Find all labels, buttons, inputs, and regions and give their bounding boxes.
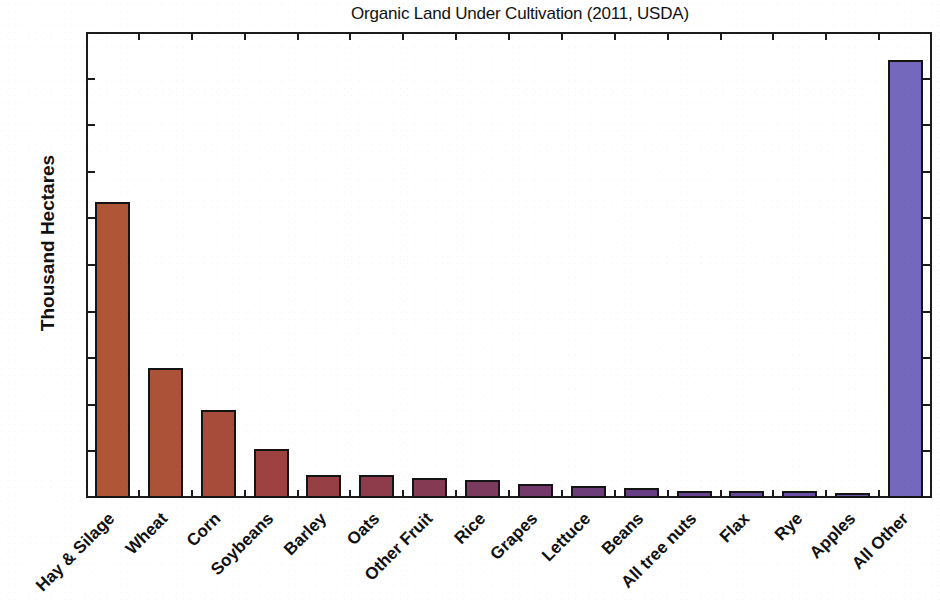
bar-chart: Organic Land Under Cultivation (2011, US… <box>0 0 940 602</box>
x-axis-labels: Hay & SilageWheatCornSoybeansBarleyOatsO… <box>0 0 940 602</box>
